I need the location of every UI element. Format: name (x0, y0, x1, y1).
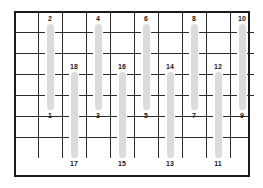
grid-horizontal-line (199, 74, 213, 75)
grid-horizontal-line (247, 74, 250, 75)
grid-tick-mark (134, 53, 141, 54)
grid-horizontal-line (55, 74, 69, 75)
grid-horizontal-line (127, 74, 141, 75)
grid-tick-mark (230, 32, 237, 33)
grid-vertical-line (134, 11, 135, 158)
grid-frame: 211817431615651413871211109 (14, 11, 250, 177)
diagram-root: 211817431615651413871211109 (0, 0, 263, 188)
grid-tick-mark (110, 116, 117, 117)
grid-tick-mark (223, 137, 230, 138)
grid-tick-mark (103, 32, 110, 33)
bar-18-17[interactable] (71, 72, 78, 158)
bar-10-9[interactable] (239, 24, 246, 110)
bar-12-11[interactable] (215, 72, 222, 158)
grid-horizontal-line (14, 95, 45, 96)
bar-label-top: 4 (90, 15, 106, 23)
grid-vertical-line (182, 11, 183, 158)
grid-tick-mark (247, 53, 254, 54)
grid-horizontal-line (103, 32, 141, 33)
grid-tick-mark (151, 53, 158, 54)
grid-horizontal-line (175, 137, 213, 138)
bar-2-1[interactable] (47, 24, 54, 110)
grid-tick-mark (110, 95, 117, 96)
grid-horizontal-line (247, 95, 250, 96)
grid-horizontal-line (55, 32, 93, 33)
grid-horizontal-line (223, 74, 237, 75)
bar-14-13[interactable] (167, 72, 174, 158)
grid-horizontal-line (199, 32, 237, 33)
grid-vertical-line (206, 11, 207, 158)
grid-horizontal-line (79, 116, 117, 117)
grid-tick-mark (86, 53, 93, 54)
grid-tick-mark (175, 116, 182, 117)
bars-layer (16, 13, 248, 175)
grid-horizontal-line (175, 95, 189, 96)
grid-horizontal-line (151, 32, 189, 33)
bar-16-15[interactable] (119, 72, 126, 158)
grid-horizontal-line (175, 116, 213, 117)
grid-tick-mark (230, 53, 237, 54)
grid-tick-mark (182, 53, 189, 54)
grid-horizontal-line (151, 53, 189, 54)
grid-horizontal-line (14, 53, 45, 54)
grid-tick-mark (134, 32, 141, 33)
grid-tick-mark (38, 32, 45, 33)
grid-tick-mark (86, 74, 93, 75)
grid-tick-mark (223, 116, 230, 117)
grid-horizontal-line (103, 74, 117, 75)
bar-label-top: 2 (42, 15, 58, 23)
grid-tick-mark (103, 95, 110, 96)
grid-tick-mark (55, 53, 62, 54)
grid-horizontal-line (223, 116, 250, 117)
grid-horizontal-line (127, 137, 165, 138)
grid-tick-mark (86, 95, 93, 96)
grid-horizontal-line (14, 137, 69, 138)
grid-tick-mark (247, 95, 254, 96)
grid-horizontal-line (103, 53, 141, 54)
grid-tick-mark (206, 137, 213, 138)
grid-tick-mark (182, 32, 189, 33)
grid-tick-mark (151, 74, 158, 75)
grid-horizontal-line (199, 53, 237, 54)
grid-tick-mark (55, 95, 62, 96)
grid-tick-mark (38, 74, 45, 75)
grid-horizontal-line (199, 95, 213, 96)
grid-tick-mark (151, 32, 158, 33)
grid-tick-mark (175, 95, 182, 96)
grid-vertical-line (62, 11, 63, 158)
grid-horizontal-line (223, 137, 250, 138)
grid-vertical-line (110, 11, 111, 158)
bar-4-3[interactable] (95, 24, 102, 110)
grid-horizontal-line (14, 74, 45, 75)
bar-label-bottom: 5 (138, 112, 154, 120)
bar-label-top: 6 (138, 15, 154, 23)
grid-tick-mark (134, 95, 141, 96)
grid-tick-mark (55, 74, 62, 75)
grid-horizontal-line (151, 74, 165, 75)
grid-horizontal-line (127, 95, 141, 96)
grid-horizontal-line (79, 95, 93, 96)
grid-tick-mark (134, 74, 141, 75)
grid-tick-mark (151, 95, 158, 96)
grid-horizontal-line (151, 95, 165, 96)
grid-tick-mark (62, 95, 69, 96)
bar-label-top: 12 (210, 63, 226, 71)
bar-label-top: 16 (114, 63, 130, 71)
grid-tick-mark (199, 74, 206, 75)
bar-label-bottom: 13 (162, 160, 178, 168)
bar-label-top: 18 (66, 63, 82, 71)
grid-horizontal-line (127, 116, 165, 117)
grid-vertical-line (86, 11, 87, 158)
grid-tick-mark (62, 116, 69, 117)
grid-horizontal-line (14, 116, 69, 117)
bar-label-bottom: 3 (90, 112, 106, 120)
bar-6-5[interactable] (143, 24, 150, 110)
grid-horizontal-line (55, 53, 93, 54)
bar-8-7[interactable] (191, 24, 198, 110)
grid-tick-mark (175, 137, 182, 138)
grid-horizontal-line (175, 74, 189, 75)
grid-tick-mark (127, 95, 134, 96)
bar-label-bottom: 9 (234, 112, 250, 120)
grid-tick-mark (230, 74, 237, 75)
grid-tick-mark (158, 137, 165, 138)
